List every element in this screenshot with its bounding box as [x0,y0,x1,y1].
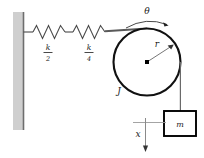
radius-label: r [155,39,160,49]
theta-arrow-head [163,22,168,26]
displacement-label: x [135,129,140,139]
spring-assembly [24,26,106,39]
inertia-label: J [115,86,122,96]
pulley-center-dot [145,60,149,64]
theta-label: θ [144,6,150,16]
theta-rotation-arrow [126,21,169,28]
pulley [114,29,181,96]
diagram-canvas: k 2 k 4 θ r J m x [0,0,204,158]
spring-2-label-denominator: 4 [86,55,91,63]
mass-label: m [176,120,184,129]
spring-2-label: k 4 [85,43,94,63]
spring-1-label-numerator: k [46,43,51,52]
spring-2-coils [73,26,105,39]
x-arrow-head [143,146,148,153]
wall-body [13,12,24,130]
spring-1-label: k 2 [44,43,53,63]
spring-2-label-numerator: k [87,43,92,52]
spring-1-label-denominator: 2 [45,55,50,63]
fixed-support-wall [13,12,24,130]
mechanical-system-diagram: k 2 k 4 θ r J m x [0,0,204,158]
spring-1-coils [33,26,65,39]
theta-arc [126,21,167,28]
